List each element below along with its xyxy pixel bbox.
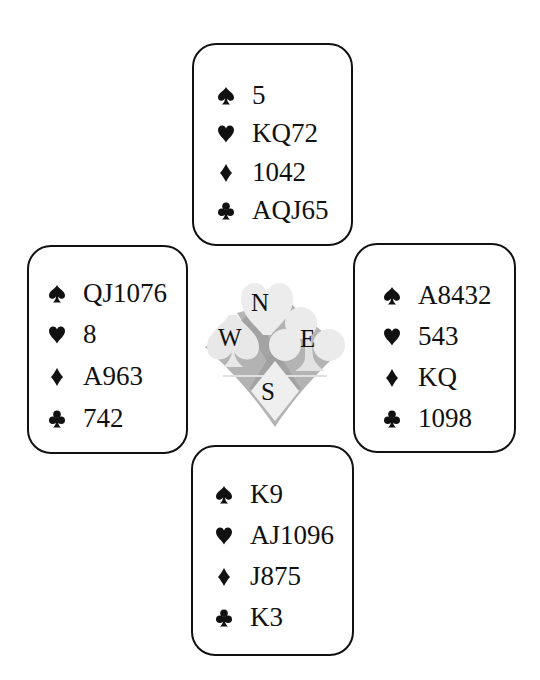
diamond-icon — [384, 369, 400, 387]
hand-west: QJ1076 8 A963 742 — [27, 245, 188, 454]
hand-north: 5 KQ72 1042 AQJ65 — [192, 43, 353, 246]
diamond-icon — [49, 368, 65, 386]
hand-south: K9 AJ1096 J875 K3 — [191, 445, 354, 656]
spade-icon — [218, 87, 234, 105]
spade-icon — [216, 486, 232, 504]
cards-clubs: AQJ65 — [252, 195, 329, 225]
compass-rose: N W E S — [201, 265, 349, 431]
spade-icon — [384, 287, 400, 305]
cards-hearts: 8 — [83, 319, 97, 349]
compass-east: E — [300, 326, 315, 351]
cards-spades: 5 — [252, 80, 266, 110]
cards-spades: QJ1076 — [83, 278, 167, 308]
cards-hearts: KQ72 — [252, 118, 318, 148]
cards-diamonds: A963 — [83, 361, 143, 391]
cards-clubs: K3 — [250, 602, 283, 632]
cards-diamonds: KQ — [418, 362, 457, 392]
cards-spades: A8432 — [418, 280, 492, 310]
compass-south: S — [261, 379, 275, 404]
heart-icon — [216, 527, 232, 545]
spade-icon — [49, 285, 65, 303]
cards-hearts: AJ1096 — [250, 520, 334, 550]
diamond-icon — [216, 568, 232, 586]
cards-spades: K9 — [250, 479, 283, 509]
club-icon — [216, 609, 232, 627]
club-icon — [218, 202, 234, 220]
cards-diamonds: J875 — [250, 561, 301, 591]
club-icon — [384, 410, 400, 428]
hand-east: A8432 543 KQ 1098 — [353, 243, 516, 453]
compass-west: W — [218, 325, 242, 350]
cards-clubs: 742 — [83, 403, 124, 433]
diamond-icon — [218, 164, 234, 182]
compass-north: N — [251, 290, 269, 315]
heart-icon — [384, 328, 400, 346]
cards-clubs: 1098 — [418, 403, 472, 433]
cards-diamonds: 1042 — [252, 157, 306, 187]
heart-icon — [218, 125, 234, 143]
club-icon — [49, 410, 65, 428]
cards-hearts: 543 — [418, 321, 459, 351]
heart-icon — [49, 326, 65, 344]
